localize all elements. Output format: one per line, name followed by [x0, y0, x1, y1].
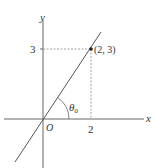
point-label: (2, 3)	[94, 44, 116, 56]
x-tick-label: 2	[88, 123, 94, 135]
x-axis-label: x	[145, 112, 151, 124]
origin-label: O	[46, 122, 53, 133]
coordinate-diagram: y x O 3 2 (2, 3) θ0	[0, 0, 157, 168]
point-marker	[89, 47, 93, 51]
angle-subscript: 0	[74, 107, 78, 115]
angle-arc	[58, 98, 70, 120]
line-through-origin	[15, 32, 101, 162]
y-tick-label: 3	[30, 43, 36, 55]
angle-label: θ0	[69, 101, 78, 115]
y-axis-label: y	[39, 11, 45, 23]
